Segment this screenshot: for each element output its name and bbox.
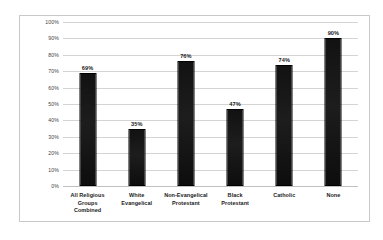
x-axis-category-label: BlackProtestant (211, 192, 260, 207)
x-axis-category-label-line: None (309, 192, 358, 200)
y-axis-tick-label: 0% (51, 183, 59, 189)
x-axis-category-label-line: All Religious (63, 192, 112, 200)
bar-slot: 69% (63, 22, 112, 186)
bar[interactable] (79, 73, 96, 186)
y-axis-tick-label: 20% (48, 150, 59, 156)
bar-slot: 47% (211, 22, 260, 186)
bar-chart: 0%10%20%30%40%50%60%70%80%90%100% 69%35%… (0, 0, 383, 240)
y-axis-tick-label: 70% (48, 68, 59, 74)
x-axis-category-label: All ReligiousGroupsCombined (63, 192, 112, 215)
bar-value-label: 76% (180, 53, 192, 59)
x-axis-category-label: WhiteEvangelical (112, 192, 161, 207)
x-axis-category-label-line: Non-Evangelical (161, 192, 210, 200)
bar-slot: 90% (309, 22, 358, 186)
x-axis-category-label-line: White (112, 192, 161, 200)
plot-area: 0%10%20%30%40%50%60%70%80%90%100% 69%35%… (63, 22, 358, 186)
chart-frame: 0%10%20%30%40%50%60%70%80%90%100% 69%35%… (19, 15, 370, 222)
bar-value-label: 47% (229, 101, 241, 107)
x-axis-category-labels: All ReligiousGroupsCombinedWhiteEvangeli… (63, 192, 358, 226)
x-axis-category-label: None (309, 192, 358, 200)
x-axis-category-label-line: Catholic (260, 192, 309, 200)
y-axis-tick-label: 60% (48, 85, 59, 91)
bars-layer: 69%35%76%47%74%90% (63, 22, 358, 186)
bar[interactable] (128, 129, 145, 186)
bar-value-label: 69% (82, 65, 94, 71)
bar-value-label: 90% (328, 30, 340, 36)
x-axis-category-label-line: Protestant (211, 200, 260, 208)
bar-slot: 76% (161, 22, 210, 186)
gridline (63, 186, 358, 187)
bar-value-label: 35% (131, 121, 143, 127)
y-axis-tick-label: 100% (45, 19, 59, 25)
bar-slot: 74% (260, 22, 309, 186)
x-axis-category-label-line: Combined (63, 207, 112, 215)
x-axis-category-label-line: Groups (63, 200, 112, 208)
y-axis-tick-label: 80% (48, 52, 59, 58)
bar-value-label: 74% (278, 57, 290, 63)
bar[interactable] (227, 109, 244, 186)
x-axis-category-label: Non-EvangelicalProtestant (161, 192, 210, 207)
x-axis-category-label-line: Black (211, 192, 260, 200)
y-axis-tick-label: 40% (48, 117, 59, 123)
bar[interactable] (177, 61, 194, 186)
x-axis-category-label-line: Protestant (161, 200, 210, 208)
x-axis-category-label-line: Evangelical (112, 200, 161, 208)
x-axis-category-label: Catholic (260, 192, 309, 200)
y-axis-tick-label: 30% (48, 134, 59, 140)
bar-slot: 35% (112, 22, 161, 186)
y-axis-tick-label: 50% (48, 101, 59, 107)
y-axis-tick-label: 10% (48, 167, 59, 173)
y-axis-tick-label: 90% (48, 35, 59, 41)
bar[interactable] (276, 65, 293, 186)
bar[interactable] (325, 38, 342, 186)
